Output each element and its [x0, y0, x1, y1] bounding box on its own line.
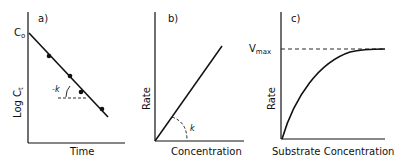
kinetics-figure: a) Co -k Time Log Ct b) k Concentration … [0, 0, 403, 162]
a-y-label: Log Ct [12, 87, 25, 118]
b-rate-line [155, 46, 222, 141]
c-saturation-curve [282, 49, 385, 139]
a-c0-label: Co [14, 27, 25, 40]
a-x-label: Time [69, 146, 94, 157]
a-point [79, 90, 84, 95]
a-point [47, 54, 52, 59]
panel-b: b) k Concentration Rate [141, 12, 244, 157]
b-y-label: Rate [141, 87, 152, 110]
c-x-label: Substrate Concentration [272, 146, 394, 157]
panel-c: c) Vmax Substrate Concentration Rate [249, 12, 394, 157]
c-y-label: Rate [266, 87, 277, 110]
a-panel-label: a) [38, 13, 48, 24]
panel-a: a) Co -k Time Log Ct [12, 12, 125, 157]
b-panel-label: b) [168, 13, 178, 24]
b-x-label: Concentration [171, 146, 242, 157]
b-slope-arc [172, 117, 187, 140]
c-vmax-label: Vmax [249, 43, 271, 56]
b-slope-label: k [190, 124, 195, 133]
a-point [68, 74, 73, 79]
c-panel-label: c) [291, 13, 300, 24]
a-slope-arc [66, 86, 70, 97]
a-point [100, 107, 105, 112]
a-slope-label: -k [52, 85, 60, 94]
